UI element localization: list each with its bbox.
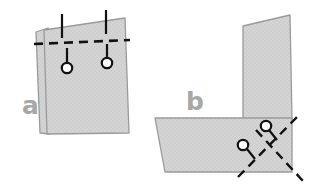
figure-container: a b [0, 0, 313, 187]
panel-label-a: a [22, 91, 39, 120]
tack-circle [261, 121, 271, 131]
tack-circle [238, 140, 248, 150]
welded-joint-diagram: a b [0, 0, 313, 187]
tack-circle [102, 58, 112, 68]
panel-a-front-plate [44, 18, 129, 134]
panel-b-vertical-web-plate [243, 15, 292, 120]
tack-circle [62, 63, 72, 73]
panel-label-b: b [186, 87, 204, 116]
